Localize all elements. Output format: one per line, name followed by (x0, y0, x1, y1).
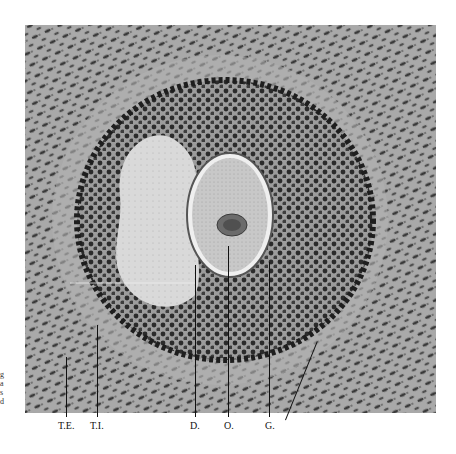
micrograph-plate (25, 25, 436, 413)
label-discus: D. (190, 420, 200, 431)
label-theca-externa: T.E. (58, 420, 74, 431)
label-theca-interna: T.I. (90, 420, 104, 431)
fragment: a (0, 379, 4, 388)
leader-line-te (66, 357, 67, 417)
label-granulosa: G. (265, 420, 275, 431)
fragment: d (0, 397, 4, 406)
fragment: s (0, 388, 4, 397)
fragment: g (0, 370, 4, 379)
follicle-illustration (25, 25, 436, 413)
label-oocyte: O. (224, 420, 234, 431)
leader-line-ti (97, 325, 98, 417)
cropped-caption-fragments: g a s d (0, 370, 4, 406)
leader-line-d (195, 265, 196, 417)
leader-line-o (228, 246, 229, 417)
leader-line-g1 (269, 262, 270, 417)
